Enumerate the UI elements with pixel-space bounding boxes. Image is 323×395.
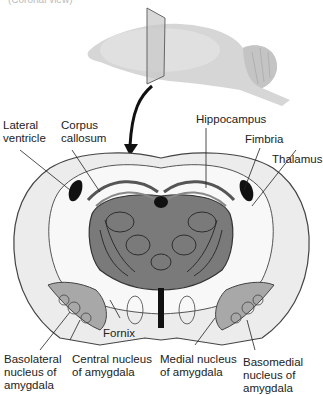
label-hippocampus: Hippocampus: [196, 113, 266, 126]
label-fornix: Fornix: [103, 327, 135, 340]
brain-diagram: (Coronal view) Lateral ventricle Corpus …: [0, 0, 323, 395]
top-caption: (Coronal view): [8, 0, 72, 5]
label-fimbria: Fimbria: [245, 133, 283, 146]
label-basomedial-nucleus: Basomedial nucleus of amygdala: [243, 356, 303, 395]
coronal-section: [14, 153, 309, 345]
coronal-section-illustration: [0, 0, 323, 395]
label-thalamus: Thalamus: [272, 153, 323, 166]
label-basolateral-nucleus: Basolateral nucleus of amygdala: [4, 353, 62, 392]
label-medial-nucleus: Medial nucleus of amygdala: [160, 353, 237, 379]
label-corpus-callosum: Corpus callosum: [61, 119, 106, 145]
label-lateral-ventricle: Lateral ventricle: [3, 119, 46, 145]
whole-brain-3d: [88, 8, 290, 106]
label-central-nucleus: Central nucleus of amygdala: [72, 353, 152, 379]
